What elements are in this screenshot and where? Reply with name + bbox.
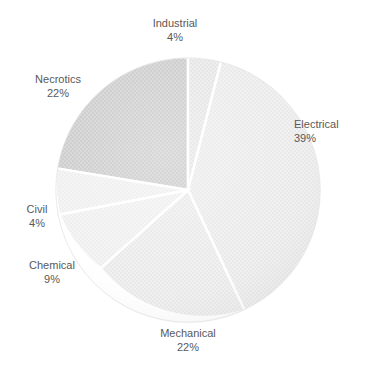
pie-label-chemical: Chemical 9% — [12, 259, 92, 286]
pie-label-mechanical: Mechanical 22% — [133, 327, 243, 354]
pie-label-electrical: Electrical 39% — [294, 118, 374, 145]
pie-label-chemical-name: Chemical — [12, 259, 92, 273]
pie-label-chemical-percent: 9% — [12, 273, 92, 287]
pie-label-necrotics-percent: 22% — [8, 87, 108, 101]
pie-label-mechanical-name: Mechanical — [133, 327, 243, 341]
pie-label-civil: Civil 4% — [2, 203, 72, 230]
pie-label-electrical-percent: 39% — [294, 132, 374, 146]
pie-label-electrical-name: Electrical — [294, 118, 374, 132]
pie-label-necrotics: Necrotics 22% — [8, 73, 108, 100]
pie-chart-graphic — [0, 0, 376, 369]
pie-label-civil-name: Civil — [2, 203, 72, 217]
pie-label-necrotics-name: Necrotics — [8, 73, 108, 87]
pie-label-industrial-name: Industrial — [120, 17, 230, 31]
pie-label-mechanical-percent: 22% — [133, 341, 243, 355]
pie-label-industrial-percent: 4% — [120, 31, 230, 45]
pie-chart-figure: Industrial 4% Necrotics 22% Electrical 3… — [0, 0, 376, 369]
pie-label-civil-percent: 4% — [2, 217, 72, 231]
pie-label-industrial: Industrial 4% — [120, 17, 230, 44]
